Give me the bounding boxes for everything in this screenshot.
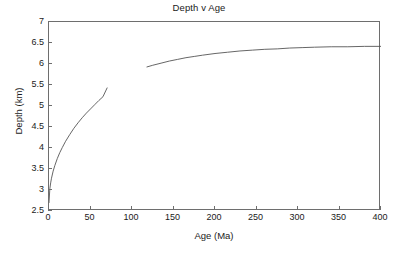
- x-tick-label-text: 350: [331, 212, 346, 222]
- x-tick-label-text: 50: [84, 212, 94, 222]
- x-tick-mark: [297, 206, 298, 210]
- x-tick-label-text: 300: [289, 212, 304, 222]
- y-tick-label-text: 4.5: [31, 121, 44, 131]
- y-tick-mark: [48, 147, 52, 148]
- y-tick-mark: [48, 84, 52, 85]
- x-tick-label-text: 150: [165, 212, 180, 222]
- x-tick-label-text: 250: [248, 212, 263, 222]
- y-tick-label-text: 3.5: [31, 163, 44, 173]
- y-tick-mark: [48, 21, 52, 22]
- y-tick-label-text: 7: [39, 16, 44, 26]
- y-tick-mark: [48, 63, 52, 64]
- y-tick-label-text: 2.5: [31, 205, 44, 215]
- data-curves: [49, 22, 381, 211]
- y-tick-mark: [48, 126, 52, 127]
- y-tick-label-text: 5: [39, 100, 44, 110]
- x-tick-mark: [380, 206, 381, 210]
- y-tick-label-text: 6.5: [31, 37, 44, 47]
- plot-area: [48, 21, 380, 210]
- x-tick-mark: [339, 206, 340, 210]
- y-tick-label-text: 5.5: [31, 79, 44, 89]
- x-axis-label: Age (Ma): [48, 230, 380, 242]
- y-tick-mark: [48, 42, 52, 43]
- x-tick-mark: [90, 206, 91, 210]
- y-tick-mark: [48, 168, 52, 169]
- y-tick-mark: [48, 210, 52, 211]
- x-tick-mark: [48, 206, 49, 210]
- chart-figure: Depth v Age 2.533.544.555.566.57 0501001…: [0, 0, 398, 253]
- chart-title: Depth v Age: [0, 2, 398, 14]
- x-tick-mark: [131, 206, 132, 210]
- y-axis-label: Depth (km): [13, 64, 25, 159]
- x-tick-label-text: 100: [123, 212, 138, 222]
- series-line-0: [49, 88, 107, 203]
- x-tick-mark: [214, 206, 215, 210]
- x-tick-mark: [173, 206, 174, 210]
- y-tick-label-text: 6: [39, 58, 44, 68]
- x-tick-label-text: 400: [372, 212, 387, 222]
- y-tick-label-text: 3: [39, 184, 44, 194]
- x-tick-label-text: 0: [45, 212, 50, 222]
- x-tick-label-text: 200: [206, 212, 221, 222]
- y-tick-label-text: 4: [39, 142, 44, 152]
- series-line-1: [147, 46, 381, 67]
- y-tick-mark: [48, 105, 52, 106]
- y-tick-mark: [48, 189, 52, 190]
- x-tick-mark: [256, 206, 257, 210]
